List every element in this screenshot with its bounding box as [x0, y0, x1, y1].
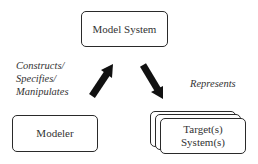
arrow-down-icon: [143, 65, 163, 99]
modeler-box: Modeler: [12, 115, 98, 152]
targets-label-line2: System(s): [181, 136, 225, 149]
modeler-label: Modeler: [36, 127, 73, 140]
targets-box: Target(s) System(s): [160, 118, 246, 154]
arrow-up-icon: [92, 64, 113, 96]
targets-label-line1: Target(s): [183, 123, 222, 136]
